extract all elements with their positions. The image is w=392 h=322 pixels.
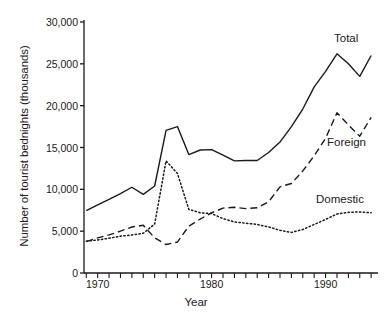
series-label-total: Total — [334, 32, 358, 44]
plot-area — [0, 0, 392, 322]
series-label-domestic: Domestic — [316, 193, 364, 205]
series-label-foreign: Foreign — [327, 136, 366, 148]
chart-figure: Number of tourist bednights (thousands) … — [0, 0, 392, 322]
series-line-foreign — [86, 113, 371, 245]
